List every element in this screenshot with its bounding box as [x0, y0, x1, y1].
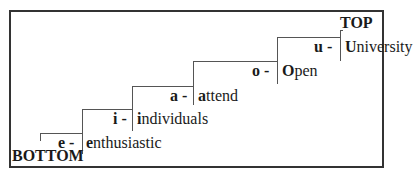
- top-label: TOP: [340, 15, 373, 31]
- step-word-individuals: individuals: [137, 111, 208, 127]
- step-word-enthusiastic: enthusiastic: [86, 135, 162, 151]
- word-rest: niversity: [357, 38, 413, 55]
- step-letter-a: a -: [170, 88, 187, 104]
- step-word-attend: attend: [198, 88, 238, 104]
- riser-u: [340, 30, 341, 61]
- step-letter-u: u -: [314, 39, 332, 55]
- step-letter-o: o -: [252, 63, 269, 79]
- word-rest: ttend: [206, 87, 238, 104]
- word-initial: O: [282, 62, 294, 79]
- riser-o: [277, 37, 278, 84]
- riser-bottom: [40, 133, 41, 141]
- word-rest: nthusiastic: [93, 134, 161, 151]
- riser-a: [193, 61, 194, 105]
- word-initial: a: [198, 87, 206, 104]
- step-word-open: Open: [282, 63, 318, 79]
- bottom-label: BOTTOM: [12, 148, 84, 164]
- step-word-university: University: [345, 39, 413, 55]
- word-rest: pen: [294, 62, 317, 79]
- word-rest: ndividuals: [141, 110, 208, 127]
- step-letter-i: i -: [113, 111, 127, 127]
- word-initial: U: [345, 38, 357, 55]
- riser-i: [132, 86, 133, 131]
